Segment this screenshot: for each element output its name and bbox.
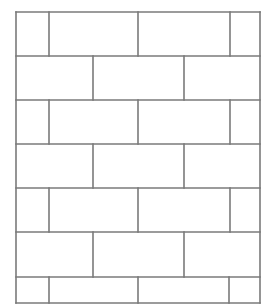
background	[0, 0, 266, 305]
brick-wall-diagram	[0, 0, 266, 305]
